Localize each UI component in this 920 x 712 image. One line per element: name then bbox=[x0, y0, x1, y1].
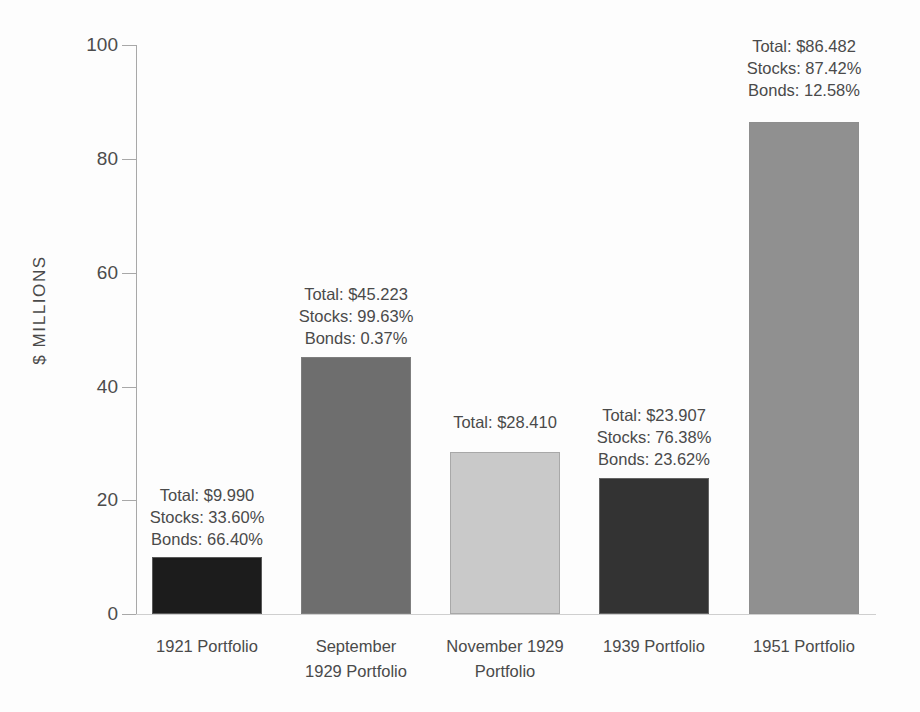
annotation-total: Total: $86.482 bbox=[724, 35, 884, 57]
x-axis-label-line: 1939 Portfolio bbox=[579, 634, 729, 659]
annotation-stocks: Stocks: 99.63% bbox=[276, 305, 436, 327]
y-tick-label-80: 80 bbox=[0, 148, 118, 170]
x-axis-label-line: 1921 Portfolio bbox=[132, 634, 282, 659]
annotation-bonds: Bonds: 12.58% bbox=[724, 79, 884, 101]
bar-annotation-1921: Total: $9.990 Stocks: 33.60% Bonds: 66.4… bbox=[127, 484, 287, 550]
bar-1939-portfolio bbox=[599, 478, 709, 614]
bar-september-1929-portfolio bbox=[301, 357, 411, 614]
x-axis-label-1921: 1921 Portfolio bbox=[132, 634, 282, 659]
annotation-bonds: Bonds: 66.40% bbox=[127, 528, 287, 550]
x-axis-label-line: 1929 Portfolio bbox=[281, 659, 431, 684]
annotation-stocks: Stocks: 76.38% bbox=[574, 426, 734, 448]
annotation-bonds: Bonds: 0.37% bbox=[276, 327, 436, 349]
x-axis-label-1939: 1939 Portfolio bbox=[579, 634, 729, 659]
annotation-stocks: Stocks: 33.60% bbox=[127, 506, 287, 528]
y-tick-label-20: 20 bbox=[0, 489, 118, 511]
x-axis-label-september-1929: September 1929 Portfolio bbox=[281, 634, 431, 684]
bar-annotation-november-1929: Total: $28.410 bbox=[425, 411, 585, 433]
x-axis-baseline bbox=[136, 614, 876, 615]
y-tick-mark-80 bbox=[122, 159, 136, 160]
bar-1951-portfolio bbox=[749, 122, 859, 614]
bar-annotation-september-1929: Total: $45.223 Stocks: 99.63% Bonds: 0.3… bbox=[276, 283, 436, 349]
y-tick-mark-100 bbox=[122, 45, 136, 46]
x-axis-label-line: 1951 Portfolio bbox=[729, 634, 879, 659]
y-tick-mark-0 bbox=[122, 614, 136, 615]
annotation-total: Total: $23.907 bbox=[574, 404, 734, 426]
annotation-total: Total: $45.223 bbox=[276, 283, 436, 305]
y-tick-mark-60 bbox=[122, 273, 136, 274]
annotation-stocks: Stocks: 87.42% bbox=[724, 57, 884, 79]
y-tick-mark-40 bbox=[122, 387, 136, 388]
x-axis-label-line: Portfolio bbox=[430, 659, 580, 684]
annotation-total: Total: $28.410 bbox=[425, 411, 585, 433]
y-tick-label-40: 40 bbox=[0, 376, 118, 398]
bar-november-1929-portfolio bbox=[450, 452, 560, 614]
bar-annotation-1951: Total: $86.482 Stocks: 87.42% Bonds: 12.… bbox=[724, 35, 884, 101]
annotation-bonds: Bonds: 23.62% bbox=[574, 448, 734, 470]
bar-1921-portfolio bbox=[152, 557, 262, 614]
x-axis-label-line: September bbox=[281, 634, 431, 659]
x-axis-label-november-1929: November 1929 Portfolio bbox=[430, 634, 580, 684]
annotation-total: Total: $9.990 bbox=[127, 484, 287, 506]
y-tick-label-100: 100 bbox=[0, 34, 118, 56]
x-axis-label-line: November 1929 bbox=[430, 634, 580, 659]
y-tick-label-60: 60 bbox=[0, 262, 118, 284]
x-axis-label-1951: 1951 Portfolio bbox=[729, 634, 879, 659]
y-tick-label-0: 0 bbox=[0, 603, 118, 625]
bar-annotation-1939: Total: $23.907 Stocks: 76.38% Bonds: 23.… bbox=[574, 404, 734, 470]
bar-chart: $ MILLIONS 100 80 60 40 20 0 Total: $9.9… bbox=[0, 0, 920, 712]
